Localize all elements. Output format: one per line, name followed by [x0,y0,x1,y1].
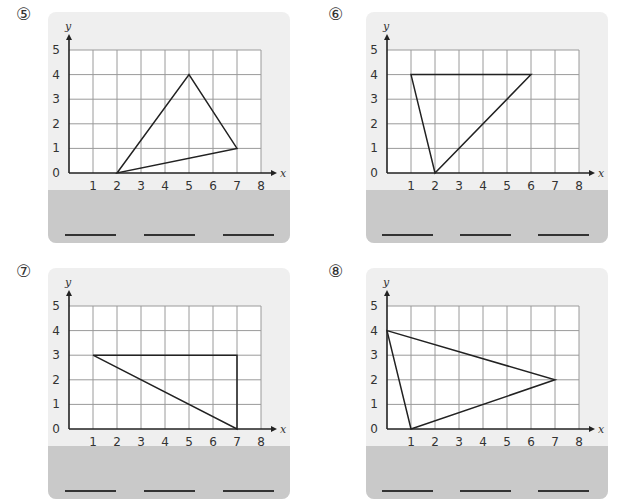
y-tick-label: 5 [52,299,60,313]
graph-card: xy12345678012345 [48,12,290,243]
coordinate-grid: xy12345678012345 [48,268,290,446]
y-tick-label: 4 [52,324,60,338]
x-arrow-icon [271,426,277,432]
y-axis-label: y [64,276,72,289]
y-axis-label: y [382,276,390,289]
answer-blank-1[interactable] [382,490,433,492]
y-tick-label: 0 [370,166,378,180]
y-tick-label: 0 [370,422,378,436]
graph-card: xy12345678012345 [48,268,290,499]
answer-blank-2[interactable] [460,234,511,236]
y-tick-label: 5 [370,299,378,313]
y-tick-label: 1 [52,397,60,411]
y-tick-label: 3 [370,348,378,362]
y-tick-label: 1 [370,397,378,411]
y-tick-label: 0 [52,166,60,180]
y-tick-label: 3 [52,92,60,106]
y-axis-label: y [64,20,72,33]
problem-number: ⑥ [328,6,343,23]
y-axis-label: y [382,20,390,33]
y-tick-label: 4 [370,68,378,82]
x-axis-label: x [280,423,287,436]
y-tick-label: 1 [52,141,60,155]
y-tick-label: 4 [370,324,378,338]
problem-number: ⑤ [16,6,31,23]
y-tick-label: 3 [370,92,378,106]
y-arrow-icon [66,290,72,296]
y-arrow-icon [66,34,72,40]
y-tick-label: 0 [52,422,60,436]
coordinate-grid: xy12345678012345 [366,268,608,446]
x-arrow-icon [271,170,277,176]
y-arrow-icon [384,34,390,40]
y-tick-label: 3 [52,348,60,362]
x-axis-label: x [280,167,287,180]
x-arrow-icon [589,170,595,176]
answer-blank-2[interactable] [144,234,195,236]
y-tick-label: 2 [52,373,60,387]
problem-number: ⑦ [16,263,31,280]
answer-blank-2[interactable] [144,490,195,492]
answer-blank-1[interactable] [65,234,116,236]
answer-blank-3[interactable] [223,234,274,236]
y-tick-label: 1 [370,141,378,155]
answer-blank-3[interactable] [223,490,274,492]
x-arrow-icon [589,426,595,432]
answer-blank-3[interactable] [538,234,589,236]
y-tick-label: 5 [52,43,60,57]
coordinate-grid: xy12345678012345 [366,12,608,190]
y-tick-label: 2 [370,373,378,387]
y-tick-label: 5 [370,43,378,57]
graph-card: xy12345678012345 [366,12,608,243]
y-tick-label: 4 [52,68,60,82]
answer-blank-2[interactable] [460,490,511,492]
answer-blank-3[interactable] [538,490,589,492]
graph-card: xy12345678012345 [366,268,608,499]
x-axis-label: x [598,423,605,436]
y-tick-label: 2 [52,117,60,131]
problem-number: ⑧ [328,263,343,280]
y-arrow-icon [384,290,390,296]
answer-blank-1[interactable] [65,490,116,492]
x-axis-label: x [598,167,605,180]
y-tick-label: 2 [370,117,378,131]
answer-blank-1[interactable] [382,234,433,236]
coordinate-grid: xy12345678012345 [48,12,290,190]
